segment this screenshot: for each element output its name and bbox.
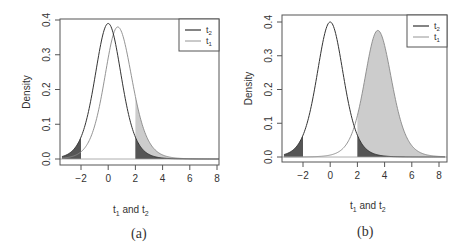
x-tick-label: 0	[105, 173, 111, 184]
y-tick-label: 0.1	[41, 117, 52, 131]
y-tick-label: 0.2	[41, 82, 52, 96]
x-tick-label: 8	[214, 173, 220, 184]
y-tick-label: 0.2	[263, 82, 274, 96]
y-tick-label: 0.0	[263, 150, 274, 164]
y-axis-label: Density	[21, 75, 32, 108]
x-tick-label: 8	[436, 170, 442, 181]
y-axis-label: Density	[243, 72, 254, 105]
y-tick-label: 0.3	[41, 47, 52, 61]
y-tick-label: 0.0	[41, 152, 52, 166]
x-axis-label-b: t1 and t2	[350, 200, 386, 213]
x-axis-label-a: t1 and t2	[113, 204, 149, 217]
x-tick-label: 0	[327, 170, 333, 181]
x-tick-label: −2	[297, 170, 309, 181]
density-plot-b: −2024680.00.10.20.30.4Densityt2t1	[232, 0, 463, 247]
legend: t2t1	[407, 15, 447, 47]
x-tick-label: 2	[133, 173, 139, 184]
y-tick-label: 0.1	[263, 116, 274, 130]
legend: t2t1	[179, 19, 219, 51]
caption-b: (b)	[357, 224, 373, 240]
y-tick-label: 0.4	[41, 13, 52, 27]
x-tick-label: 6	[187, 173, 193, 184]
panel-a: −2024680.00.10.20.30.4Densityt2t1 t1 and…	[0, 0, 231, 247]
x-tick-label: 4	[160, 173, 166, 184]
y-tick-label: 0.3	[263, 48, 274, 62]
x-tick-label: 4	[382, 170, 388, 181]
x-tick-label: 6	[409, 170, 415, 181]
y-tick-label: 0.4	[263, 15, 274, 29]
power-region-shading	[135, 97, 223, 159]
panel-b: −2024680.00.10.20.30.4Densityt2t1 t1 and…	[232, 0, 463, 247]
caption-a: (a)	[131, 226, 147, 242]
x-tick-label: 2	[355, 170, 361, 181]
x-tick-label: −2	[75, 173, 87, 184]
